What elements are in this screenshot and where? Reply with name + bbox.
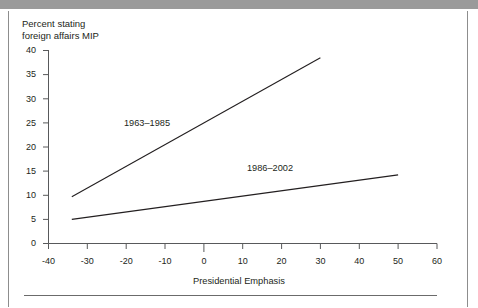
x-axis-ticks [49, 244, 438, 253]
chart-canvas: Percent stating foreign affairs MIP 40 3… [0, 0, 478, 308]
x-axis-title: Presidential Emphasis [0, 276, 478, 286]
x-tick-label-30: 30 [305, 256, 335, 266]
x-tick-label-20: 20 [267, 256, 297, 266]
x-tick-label-10: 10 [228, 256, 258, 266]
y-tick-label-5: 5 [14, 214, 36, 224]
y-tick-label-25: 25 [14, 118, 36, 128]
bottom-horizontal-rule [24, 295, 437, 296]
x-tick-label-minus-20: -20 [111, 256, 141, 266]
series-annotation-1963-1985: 1963–1985 [124, 118, 170, 128]
x-tick-label-minus-40: -40 [34, 256, 64, 266]
y-axis-ticks [43, 51, 49, 244]
y-tick-label-20: 20 [14, 142, 36, 152]
series-annotation-1986-2002: 1986–2002 [247, 163, 293, 173]
series-line-1963-1985 [72, 58, 321, 197]
x-tick-label-minus-30: -30 [72, 256, 102, 266]
y-tick-label-35: 35 [14, 69, 36, 79]
y-tick-label-40: 40 [14, 45, 36, 55]
y-tick-label-10: 10 [14, 190, 36, 200]
x-tick-label-minus-10: -10 [150, 256, 180, 266]
x-tick-label-50: 50 [383, 256, 413, 266]
y-axis-title: Percent stating foreign affairs MIP [22, 18, 99, 41]
y-tick-label-0: 0 [14, 238, 36, 248]
y-tick-label-30: 30 [14, 94, 36, 104]
x-tick-label-60: 60 [422, 256, 452, 266]
x-tick-label-40: 40 [344, 256, 374, 266]
figure-page: Percent stating foreign affairs MIP 40 3… [0, 0, 478, 308]
y-tick-label-15: 15 [14, 166, 36, 176]
series-line-1986-2002 [72, 175, 398, 220]
x-tick-label-0: 0 [189, 256, 219, 266]
